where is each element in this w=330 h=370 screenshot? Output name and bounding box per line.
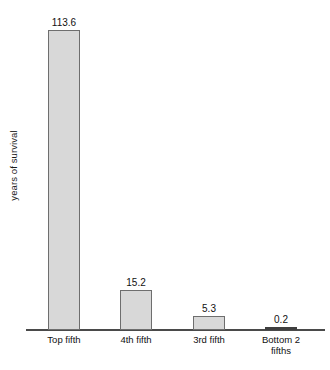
x-axis-label-line1: Top fifth [34, 334, 94, 345]
bar-group-4th-fifth[interactable]: 15.2 [120, 290, 152, 330]
x-axis-label-3rd-fifth: 3rd fifth [179, 334, 239, 345]
bar-value-label: 0.2 [274, 314, 288, 325]
bar-rect[interactable] [265, 327, 297, 330]
x-axis-label-top-fifth: Top fifth [34, 334, 94, 345]
bar-rect[interactable] [120, 290, 152, 330]
y-axis-title: years of survival [0, 0, 26, 330]
x-axis-label-line1: 4th fifth [106, 334, 166, 345]
bar-group-bottom-2-fifths[interactable]: 0.2 [265, 327, 297, 330]
bar-chart: years of survival 113.6 15.2 5.3 0.2 Top… [0, 0, 330, 370]
x-axis-label-line2: fifths [251, 345, 311, 356]
bar-value-label: 113.6 [52, 17, 76, 28]
bar-value-label: 15.2 [126, 277, 145, 288]
bar-rect[interactable] [48, 30, 80, 330]
y-axis-title-label: years of survival [8, 130, 19, 200]
x-axis-label-line1: Bottom 2 [251, 334, 311, 345]
bar-rect[interactable] [193, 316, 225, 330]
plot-area: 113.6 15.2 5.3 0.2 Top fifth 4th fifth 3… [26, 0, 325, 331]
x-axis-label-line1: 3rd fifth [179, 334, 239, 345]
bar-group-top-fifth[interactable]: 113.6 [48, 30, 80, 330]
bar-value-label: 5.3 [202, 303, 216, 314]
x-axis-label-4th-fifth: 4th fifth [106, 334, 166, 345]
x-axis-label-bottom-2-fifths: Bottom 2 fifths [251, 334, 311, 356]
bar-group-3rd-fifth[interactable]: 5.3 [193, 316, 225, 330]
